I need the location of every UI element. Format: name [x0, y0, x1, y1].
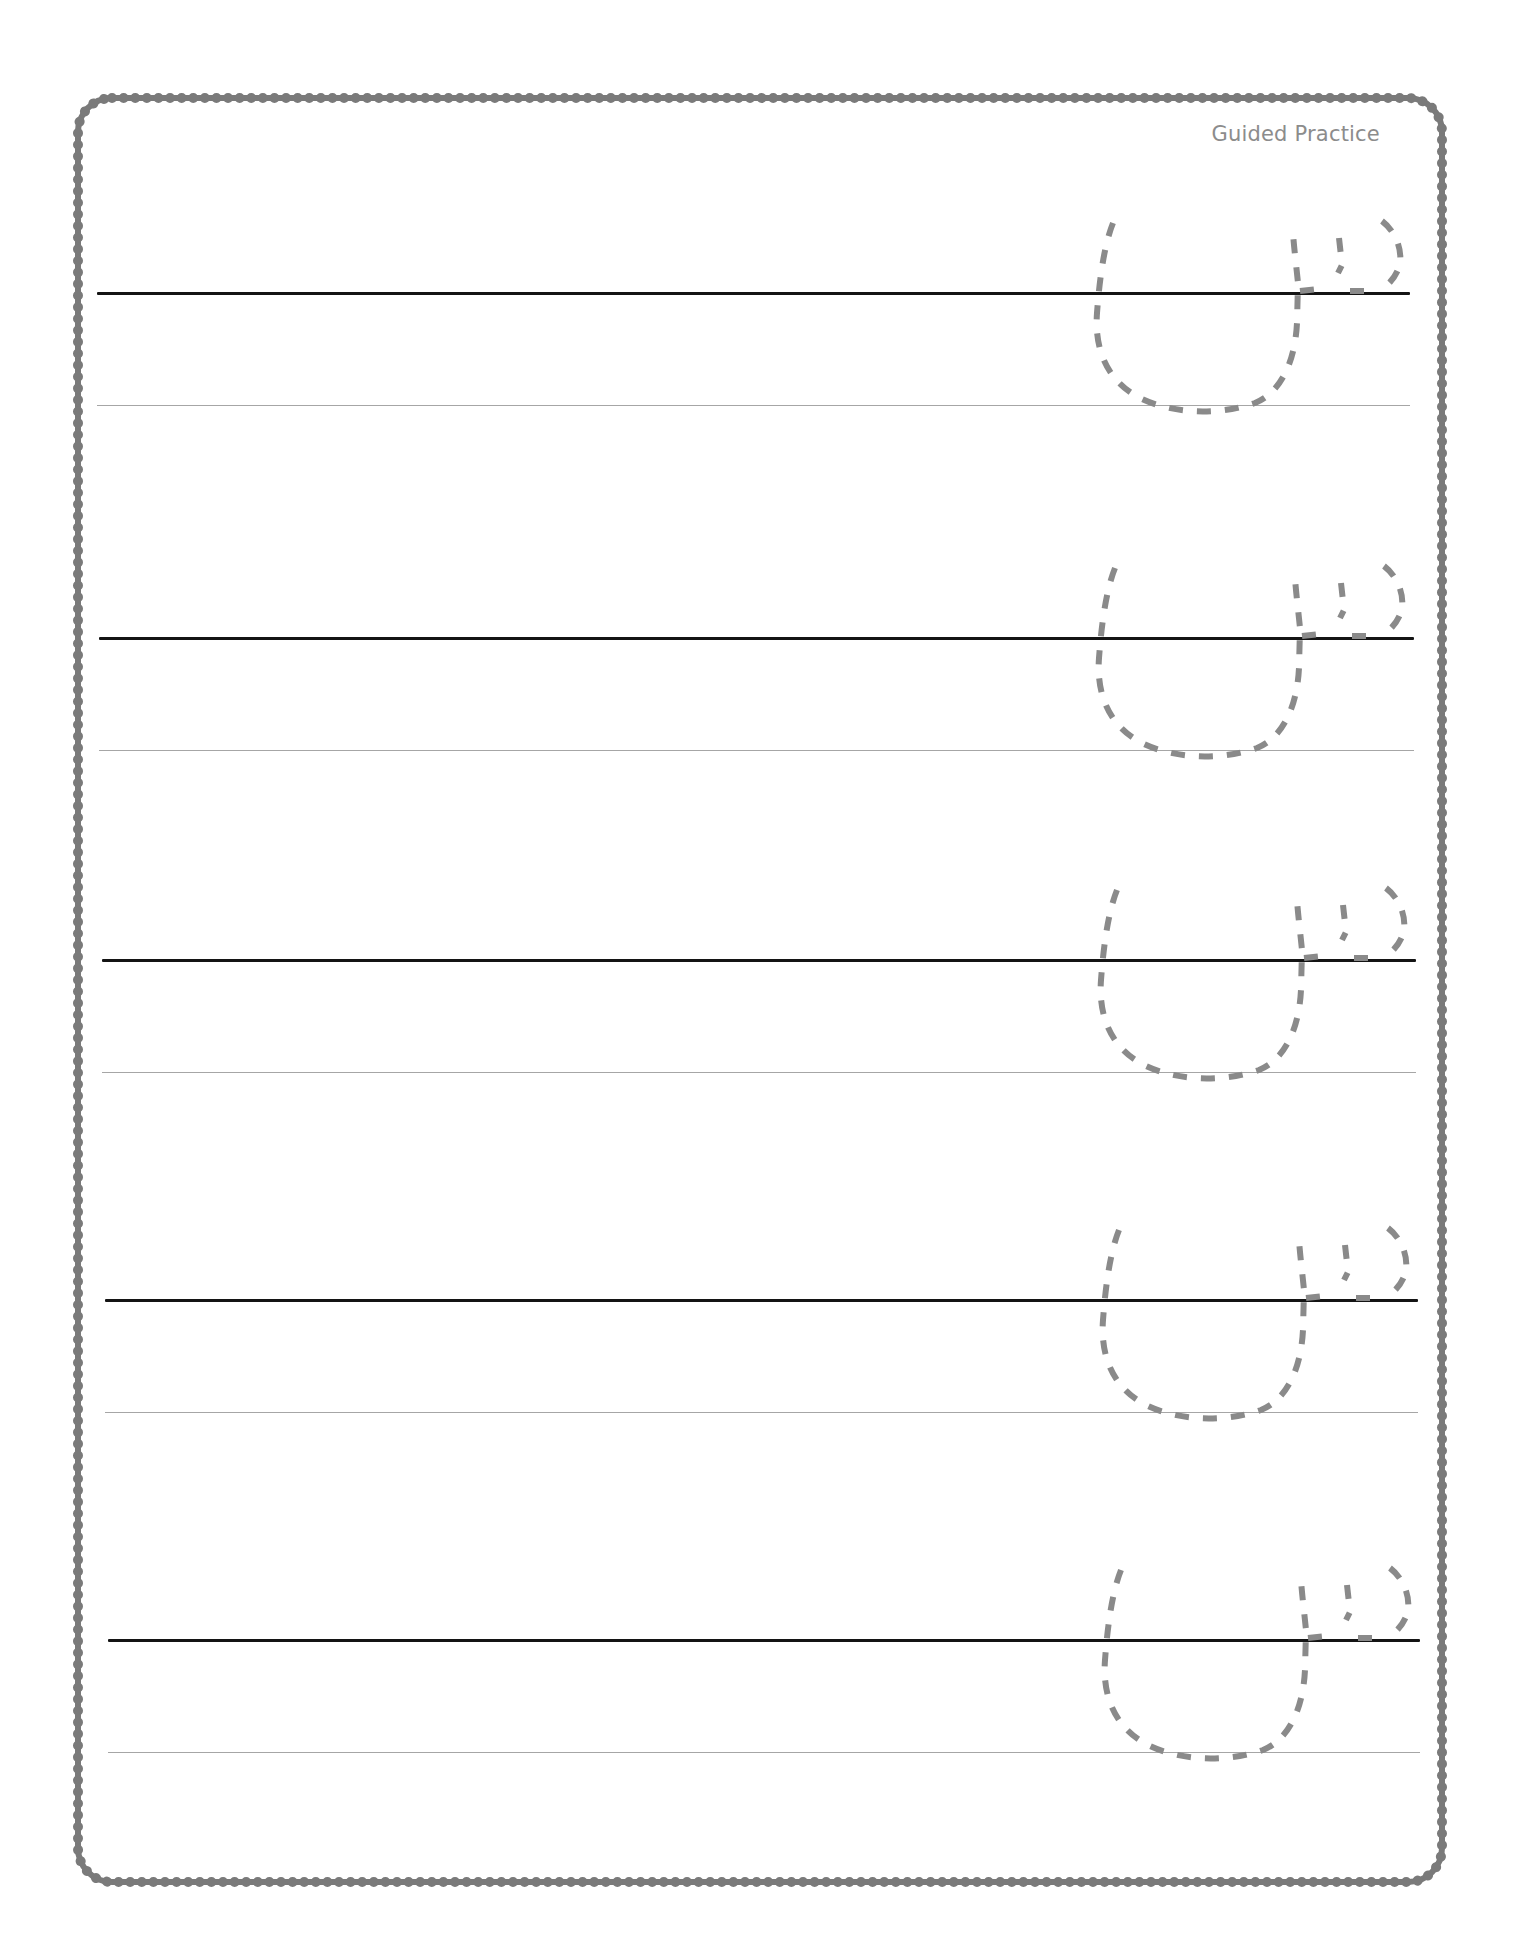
trace-stroke: [1384, 566, 1402, 632]
trace-stroke: [1390, 1568, 1408, 1634]
trace-stroke: [1300, 289, 1318, 291]
trace-stroke: [1386, 888, 1404, 954]
trace-letter-sad: [1082, 548, 1442, 788]
worksheet-page: Guided Practice: [0, 0, 1516, 1942]
trace-stroke: [1105, 1570, 1306, 1758]
trace-letter-sad: [1080, 203, 1440, 443]
trace-stroke: [1097, 223, 1298, 411]
trace-stroke: [1304, 956, 1322, 958]
trace-stroke: [1308, 1636, 1326, 1638]
trace-stroke: [1306, 1296, 1324, 1298]
trace-stroke: [1382, 221, 1400, 287]
trace-stroke: [1342, 905, 1346, 940]
trace-stroke: [1346, 1585, 1350, 1620]
trace-stroke: [1388, 1228, 1406, 1294]
trace-letter-sad: [1088, 1550, 1448, 1790]
trace-stroke: [1344, 1245, 1348, 1280]
trace-stroke: [1099, 568, 1300, 756]
trace-letter-sad: [1086, 1210, 1446, 1450]
practice-row: [0, 0, 1516, 1]
trace-stroke: [1302, 634, 1320, 636]
trace-letter-sad: [1084, 870, 1444, 1110]
trace-stroke: [1340, 583, 1344, 618]
trace-stroke: [1338, 238, 1342, 273]
trace-stroke: [1103, 1230, 1304, 1418]
trace-stroke: [1101, 890, 1302, 1078]
guided-practice-label: Guided Practice: [1211, 122, 1380, 146]
